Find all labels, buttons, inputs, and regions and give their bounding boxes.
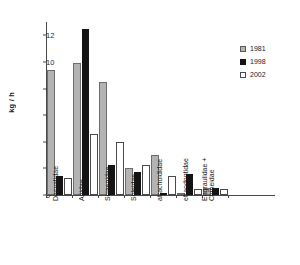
legend-swatch-icon-2002 <box>240 72 246 78</box>
x-tick-mark <box>150 195 151 198</box>
bar-chart-figure: kg / h 024681012 DasyatidaeAriidaeSciaen… <box>0 0 300 265</box>
bar-1981 <box>73 63 81 195</box>
bar-2002 <box>116 142 124 195</box>
x-tick-mark <box>72 195 73 198</box>
legend-label-1998: 1998 <box>250 58 266 65</box>
x-axis-category-label: Ariidae <box>78 179 85 201</box>
bar-group <box>125 22 151 195</box>
legend-swatch-icon-1981 <box>240 46 246 52</box>
legend-label-1981: 1981 <box>250 45 266 52</box>
legend-swatch-icon-1998 <box>240 59 246 65</box>
x-axis-category-label: Sciaenidae <box>104 166 111 201</box>
bar-2002 <box>142 165 150 195</box>
x-axis-category-line: Clupeidae <box>208 169 215 201</box>
legend-item-1998: 1998 <box>240 58 266 65</box>
legend-item-2002: 2002 <box>240 71 266 78</box>
bar-2002 <box>220 189 228 195</box>
bar-2002 <box>168 176 176 195</box>
x-axis-category-label: Dasyatidae <box>52 166 59 201</box>
x-axis-category-label: etraodontidae <box>182 158 189 201</box>
x-tick-mark <box>228 195 229 198</box>
bar-1998 <box>82 29 90 195</box>
bar-2002 <box>90 134 98 195</box>
legend-item-1981: 1981 <box>240 45 266 52</box>
bar-group <box>73 22 99 195</box>
bar-2002 <box>64 178 72 195</box>
x-tick-mark <box>176 195 177 198</box>
y-axis-title: kg / h <box>7 92 16 113</box>
legend-label-2002: 2002 <box>250 71 266 78</box>
x-tick-mark <box>46 195 47 198</box>
x-tick-mark <box>98 195 99 198</box>
x-axis-category-label: Soleidae <box>130 174 137 201</box>
x-axis-category-label: atrachoididae <box>156 159 163 201</box>
x-axis-category-label: Engraulidae +Clupeidae <box>201 158 215 201</box>
chart-legend: 1981 1998 2002 <box>240 45 266 84</box>
x-tick-mark <box>124 195 125 198</box>
x-axis-category-line: Engraulidae + <box>201 158 208 201</box>
